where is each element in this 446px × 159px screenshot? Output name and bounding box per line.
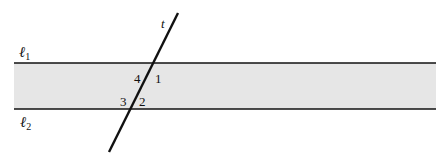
diagram-canvas: ℓ1 ℓ2 t 4 1 3 2 — [0, 0, 446, 159]
label-t: t — [161, 16, 165, 31]
angle-4-label: 4 — [134, 71, 141, 86]
shaded-region — [14, 63, 436, 109]
angle-2-label: 2 — [139, 94, 146, 109]
label-l1: ℓ1 — [19, 44, 30, 62]
angle-1-label: 1 — [155, 71, 162, 86]
parallel-lines-diagram: ℓ1 ℓ2 t 4 1 3 2 — [0, 0, 446, 159]
label-l2: ℓ2 — [20, 114, 31, 132]
angle-3-label: 3 — [120, 94, 127, 109]
